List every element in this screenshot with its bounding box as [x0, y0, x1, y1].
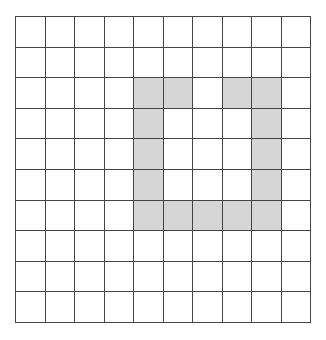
grid-cell: [46, 170, 76, 201]
grid-cell-filled: [134, 139, 164, 170]
grid-cell-filled: [134, 170, 164, 201]
grid-cell: [16, 48, 46, 79]
grid-cell: [252, 262, 282, 293]
grid-cell: [134, 292, 164, 323]
grid-cell: [282, 109, 312, 140]
grid-cell: [134, 231, 164, 262]
grid-cell: [164, 17, 194, 48]
grid-cell: [282, 78, 312, 109]
grid-cell: [16, 201, 46, 232]
shaded-grid: [15, 16, 311, 323]
grid-cell: [105, 201, 135, 232]
grid-cell: [223, 48, 253, 79]
grid-cell: [75, 231, 105, 262]
grid-cell-filled: [252, 109, 282, 140]
grid-cell-filled: [134, 109, 164, 140]
grid-cell: [223, 170, 253, 201]
grid-cell: [46, 201, 76, 232]
grid-cell: [193, 139, 223, 170]
grid-cell: [75, 78, 105, 109]
grid-cell: [193, 78, 223, 109]
grid-cell: [193, 17, 223, 48]
grid-cell: [134, 48, 164, 79]
grid-cell-filled: [134, 78, 164, 109]
grid-cell: [164, 48, 194, 79]
grid-cell-filled: [193, 201, 223, 232]
grid-cell: [193, 292, 223, 323]
grid-cell: [193, 231, 223, 262]
grid-cell: [252, 292, 282, 323]
grid-cell: [193, 262, 223, 293]
grid-cell: [46, 262, 76, 293]
grid-cell: [75, 139, 105, 170]
grid-cell: [16, 17, 46, 48]
grid-cell: [46, 17, 76, 48]
grid-cell: [223, 292, 253, 323]
grid-cell: [134, 17, 164, 48]
grid-cell: [75, 17, 105, 48]
grid-cell: [16, 78, 46, 109]
grid-cell: [16, 231, 46, 262]
grid-cell: [105, 231, 135, 262]
grid-cell: [193, 170, 223, 201]
grid-cell: [46, 231, 76, 262]
grid-cell: [46, 78, 76, 109]
grid-cell: [105, 109, 135, 140]
grid-cell: [16, 170, 46, 201]
grid-cell: [16, 139, 46, 170]
grid-cell: [282, 231, 312, 262]
grid-cell-filled: [252, 170, 282, 201]
grid-cell: [282, 292, 312, 323]
grid-cell: [75, 201, 105, 232]
grid-cell-filled: [164, 78, 194, 109]
grid-cell: [105, 292, 135, 323]
grid-cell-filled: [252, 139, 282, 170]
grid-cell: [252, 17, 282, 48]
grid-cell: [16, 109, 46, 140]
grid-cell: [16, 262, 46, 293]
grid-cell-filled: [252, 78, 282, 109]
grid-cell: [223, 231, 253, 262]
grid-cell: [75, 109, 105, 140]
grid-cell: [223, 109, 253, 140]
grid-cell: [252, 48, 282, 79]
grid-cell-filled: [252, 201, 282, 232]
grid-cell: [282, 201, 312, 232]
grid-cell: [193, 48, 223, 79]
grid-cell: [105, 48, 135, 79]
grid-cell: [282, 17, 312, 48]
grid-cell: [223, 139, 253, 170]
grid-cell: [16, 292, 46, 323]
grid-cell: [46, 139, 76, 170]
grid-cell: [164, 170, 194, 201]
grid-cell: [164, 109, 194, 140]
grid-cell: [164, 139, 194, 170]
grid-cell: [282, 139, 312, 170]
grid-cell: [164, 262, 194, 293]
grid-cell-filled: [223, 201, 253, 232]
grid-cell: [105, 17, 135, 48]
grid-cell: [282, 262, 312, 293]
grid-cell: [105, 139, 135, 170]
grid-cell: [75, 292, 105, 323]
grid-cell: [75, 170, 105, 201]
grid-cell: [164, 231, 194, 262]
grid-cell: [105, 170, 135, 201]
grid-cell-filled: [223, 78, 253, 109]
grid-cell: [223, 262, 253, 293]
grid-cell: [282, 48, 312, 79]
grid-cell: [164, 292, 194, 323]
grid-cell: [105, 78, 135, 109]
grid-cell-filled: [134, 201, 164, 232]
grid-cell: [134, 262, 164, 293]
grid-cell: [46, 48, 76, 79]
grid-cell: [282, 170, 312, 201]
grid-cell: [105, 262, 135, 293]
grid-cell: [252, 231, 282, 262]
grid-cell: [46, 292, 76, 323]
grid-cell: [193, 109, 223, 140]
grid-cell: [75, 48, 105, 79]
grid-cell: [46, 109, 76, 140]
grid-cell: [75, 262, 105, 293]
grid-cell: [223, 17, 253, 48]
